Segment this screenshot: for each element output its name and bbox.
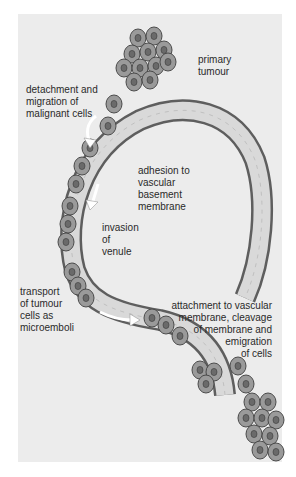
metastasis-illustration bbox=[0, 0, 296, 477]
secondary-tumour-cluster bbox=[238, 393, 284, 461]
label-primary-tumour: primary tumour bbox=[198, 54, 231, 78]
label-transport: transport of tumour cells as microemboli bbox=[20, 286, 74, 334]
label-detachment: detachment and migration of malignant ce… bbox=[26, 84, 98, 120]
label-invasion: invasion of venule bbox=[102, 222, 139, 258]
primary-tumour-cluster bbox=[116, 27, 176, 91]
label-adhesion: adhesion to vascular basement membrane bbox=[138, 165, 190, 213]
label-attachment: attachment to vascular membrane, cleavag… bbox=[160, 300, 272, 360]
